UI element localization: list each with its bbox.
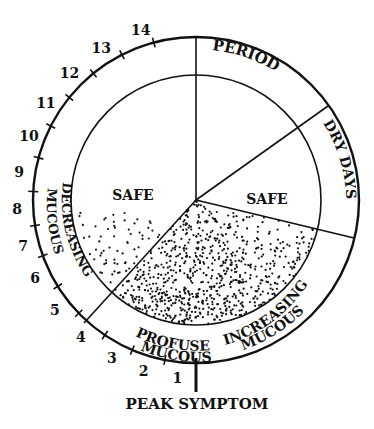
day-tick-label: 1 [172,370,182,386]
day-tick-label: 4 [76,329,86,345]
safe-label-right: SAFE [246,191,288,207]
peak-symptom-label: PEAK SYMPTOM [126,395,269,413]
day-tick [28,191,38,192]
ring-label-decreasing: DECREASING [59,182,97,280]
safe-label-left: SAFE [112,187,154,203]
day-tick-label: 5 [50,302,60,318]
divider-decreasing-profuse [84,200,196,323]
ring-label-period: PERIOD [211,36,283,75]
day-tick-label: 14 [131,22,151,38]
day-tick-label: 13 [91,40,110,56]
day-tick-label: 3 [107,350,117,366]
day-tick-label: 7 [18,238,28,254]
day-tick-label: 12 [60,65,79,81]
day-tick-label: 6 [30,270,40,286]
day-tick-label: 10 [19,128,39,144]
day-tick-label: 11 [36,95,55,111]
divider-period-dry [196,106,328,200]
cycle-wheel-diagram: 1234567891011121314 PERIOD DRY DAYS INCR… [0,0,374,429]
day-tick-label: 9 [14,164,24,180]
day-tick-label: 2 [139,363,149,379]
day-tick [30,225,40,227]
day-tick-label: 8 [12,201,22,217]
